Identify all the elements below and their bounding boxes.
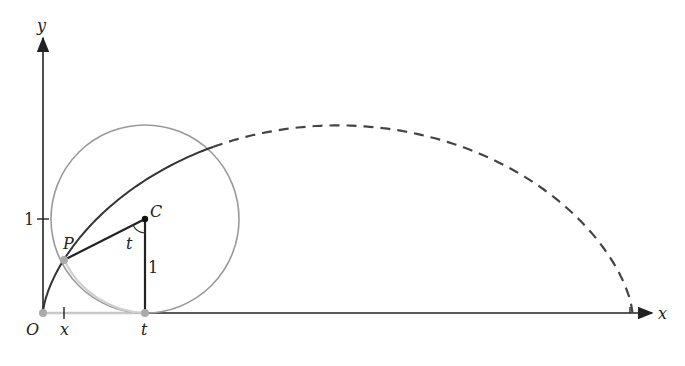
angle-arc (133, 225, 145, 233)
t-coord-label: t (141, 320, 148, 339)
point-c-label: C (150, 202, 162, 221)
rolled-arc (64, 260, 145, 313)
y-axis-label: y (36, 16, 47, 35)
point-t (141, 309, 149, 317)
cycloid-dashed (213, 125, 632, 313)
radius-label: 1 (148, 258, 158, 277)
point-o (39, 309, 47, 317)
cycloid-solid (43, 147, 213, 313)
point-p-label: P (62, 234, 74, 253)
x-coord-label: x (60, 320, 69, 339)
angle-label: t (126, 234, 133, 253)
point-p (60, 256, 68, 264)
cycloid-diagram: y x O P C t 1 1 x t (0, 0, 685, 366)
origin-label: O (26, 320, 39, 339)
point-c (142, 216, 148, 222)
y-tick-label: 1 (24, 210, 34, 229)
x-axis-label: x (658, 304, 667, 323)
